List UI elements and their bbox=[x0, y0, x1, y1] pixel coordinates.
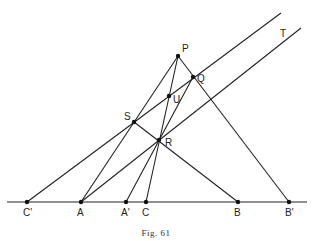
line-Cp-S-U-upper bbox=[27, 13, 281, 202]
point-r-dot bbox=[157, 138, 161, 142]
point-s-dot bbox=[132, 120, 136, 124]
point-c-dot bbox=[144, 200, 148, 204]
point-r-label: R bbox=[165, 137, 172, 148]
point-u-label: U bbox=[173, 94, 180, 105]
point-t-label: T bbox=[280, 28, 286, 39]
point-bp-label: B' bbox=[285, 207, 294, 218]
point-cp-label: C' bbox=[23, 207, 32, 218]
point-b-dot bbox=[236, 200, 240, 204]
points-group bbox=[25, 54, 291, 204]
point-s-label: S bbox=[124, 111, 131, 122]
point-a-label: A bbox=[77, 207, 84, 218]
point-u-dot bbox=[167, 94, 171, 98]
line-S-R-B bbox=[134, 122, 238, 202]
labels-group: PQUSRTC'AA'CBB' bbox=[23, 28, 294, 218]
point-q-dot bbox=[191, 75, 195, 79]
point-p-label: P bbox=[182, 43, 189, 54]
figure-caption: Fig. 61 bbox=[141, 228, 170, 238]
point-a-dot bbox=[79, 200, 83, 204]
point-cp-dot bbox=[25, 200, 29, 204]
point-p-dot bbox=[176, 54, 180, 58]
point-ap-dot bbox=[124, 200, 128, 204]
line-A-R-T bbox=[81, 28, 301, 202]
point-bp-dot bbox=[287, 200, 291, 204]
geometry-figure: PQUSRTC'AA'CBB' Fig. 61 bbox=[0, 0, 312, 241]
point-ap-label: A' bbox=[121, 207, 130, 218]
point-b-label: B bbox=[234, 207, 241, 218]
line-A-S-P bbox=[81, 56, 178, 202]
point-q-label: Q bbox=[197, 73, 205, 84]
lines-group bbox=[7, 13, 307, 202]
point-c-label: C bbox=[142, 207, 149, 218]
